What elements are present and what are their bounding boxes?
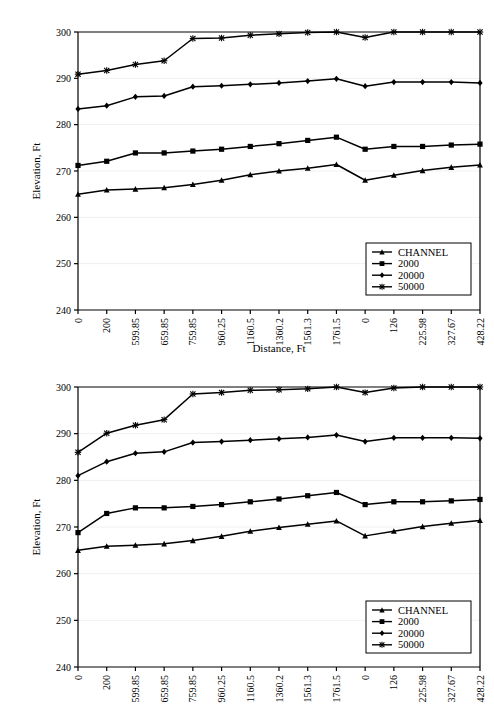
x-tick-label: 1561.3 bbox=[302, 675, 313, 703]
marker-diamond bbox=[391, 435, 396, 441]
marker-star bbox=[391, 29, 397, 35]
marker-square bbox=[190, 148, 195, 153]
marker-star bbox=[419, 384, 425, 390]
legend-label: 20000 bbox=[398, 270, 424, 281]
marker-square bbox=[133, 505, 138, 510]
y-tick-label: 270 bbox=[56, 166, 71, 177]
y-axis-ticks: 240250260270280290300 bbox=[56, 27, 78, 316]
x-tick-label: 759.85 bbox=[187, 318, 198, 346]
y-tick-label: 260 bbox=[56, 212, 71, 223]
marker-square bbox=[391, 499, 396, 504]
marker-diamond bbox=[219, 439, 224, 445]
x-tick-label: 1761.5 bbox=[331, 318, 342, 346]
marker-star bbox=[362, 34, 368, 40]
x-tick-label: 659.85 bbox=[159, 318, 170, 346]
y-tick-label: 260 bbox=[56, 568, 71, 579]
x-tick-label: 759.85 bbox=[187, 675, 198, 703]
marker-diamond bbox=[305, 434, 310, 440]
marker-square bbox=[104, 159, 109, 164]
marker-star bbox=[276, 387, 282, 393]
marker-square bbox=[420, 144, 425, 149]
x-tick-label: 0 bbox=[360, 318, 371, 323]
marker-diamond bbox=[477, 80, 482, 86]
x-tick-label: 0 bbox=[73, 318, 84, 323]
x-tick-label: 428.22 bbox=[475, 675, 486, 703]
marker-square bbox=[449, 142, 454, 147]
marker-square bbox=[305, 493, 310, 498]
marker-star bbox=[448, 29, 454, 35]
marker-star bbox=[333, 384, 339, 390]
x-tick-label: 960.25 bbox=[216, 675, 227, 703]
series-50000 bbox=[75, 29, 483, 78]
marker-star bbox=[379, 284, 385, 290]
y-tick-label: 300 bbox=[56, 27, 71, 38]
marker-square bbox=[477, 497, 482, 502]
x-axis-title: Distance, Ft bbox=[252, 342, 305, 354]
marker-star bbox=[218, 389, 224, 395]
legend-label: CHANNEL bbox=[398, 605, 448, 616]
marker-star bbox=[218, 35, 224, 41]
marker-diamond bbox=[75, 473, 80, 479]
x-tick-label: 1360.2 bbox=[274, 675, 285, 703]
y-tick-label: 250 bbox=[56, 258, 71, 269]
x-axis-ticks: 0200599.85659.85759.85960.251160.51360.2… bbox=[73, 310, 486, 346]
x-axis-ticks: 0200599.85659.85759.85960.251160.51360.2… bbox=[73, 667, 486, 703]
series-group bbox=[75, 384, 483, 553]
marker-square bbox=[248, 144, 253, 149]
marker-diamond bbox=[75, 106, 80, 112]
chart-canvas: 2402502602702802903000200599.85659.85759… bbox=[0, 355, 494, 711]
legend-label: CHANNEL bbox=[398, 247, 448, 258]
marker-star bbox=[419, 29, 425, 35]
marker-diamond bbox=[363, 83, 368, 89]
marker-star bbox=[362, 389, 368, 395]
legend-label: 2000 bbox=[398, 616, 419, 627]
marker-diamond bbox=[391, 79, 396, 85]
marker-star bbox=[379, 642, 385, 648]
x-tick-label: 599.85 bbox=[130, 675, 141, 703]
x-tick-label: 225.98 bbox=[417, 675, 428, 703]
marker-star bbox=[247, 387, 253, 393]
marker-star bbox=[75, 449, 81, 455]
legend: CHANNEL20002000050000 bbox=[366, 601, 471, 653]
chart-figure-1: 2402502602702802903000200599.85659.85759… bbox=[0, 0, 494, 360]
x-tick-label: 960.25 bbox=[216, 318, 227, 346]
marker-star bbox=[104, 430, 110, 436]
y-tick-label: 240 bbox=[56, 305, 71, 316]
marker-diamond bbox=[276, 80, 281, 86]
marker-diamond bbox=[420, 79, 425, 85]
marker-square bbox=[133, 150, 138, 155]
y-tick-label: 290 bbox=[56, 428, 71, 439]
marker-star bbox=[132, 422, 138, 428]
marker-square bbox=[477, 142, 482, 147]
marker-square bbox=[305, 138, 310, 143]
marker-star bbox=[75, 71, 81, 77]
y-tick-label: 250 bbox=[56, 615, 71, 626]
marker-star bbox=[161, 58, 167, 64]
marker-star bbox=[276, 31, 282, 37]
x-tick-label: 126 bbox=[388, 318, 399, 333]
marker-star bbox=[305, 29, 311, 35]
marker-square bbox=[363, 147, 368, 152]
y-tick-label: 300 bbox=[56, 382, 71, 393]
series-group bbox=[75, 29, 483, 197]
x-tick-label: 0 bbox=[360, 675, 371, 680]
series-20000 bbox=[75, 76, 482, 112]
y-tick-label: 280 bbox=[56, 119, 71, 130]
chart-figure-2: 2402502602702802903000200599.85659.85759… bbox=[0, 355, 494, 711]
marker-square bbox=[420, 499, 425, 504]
marker-diamond bbox=[420, 435, 425, 441]
marker-diamond bbox=[104, 459, 109, 465]
y-axis-title: Elevation, Ft bbox=[30, 143, 42, 200]
x-tick-label: 1761.5 bbox=[331, 675, 342, 703]
marker-diamond bbox=[276, 436, 281, 442]
marker-square bbox=[75, 530, 80, 535]
chart-canvas: 2402502602702802903000200599.85659.85759… bbox=[0, 0, 494, 360]
y-axis-ticks: 240250260270280290300 bbox=[56, 382, 78, 673]
series-channel bbox=[75, 517, 483, 552]
marker-square bbox=[380, 619, 385, 624]
marker-square bbox=[219, 502, 224, 507]
x-tick-label: 327.67 bbox=[446, 318, 457, 346]
marker-square bbox=[391, 144, 396, 149]
legend-label: 50000 bbox=[398, 639, 424, 650]
series-channel bbox=[75, 162, 483, 197]
